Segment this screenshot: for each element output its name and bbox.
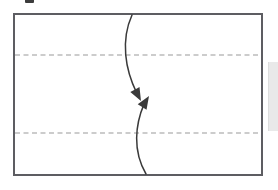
downward-arrow-shaft bbox=[125, 15, 136, 93]
diagram-vector-layer bbox=[0, 0, 278, 190]
upward-curved-arrow bbox=[137, 96, 149, 174]
figure-canvas bbox=[0, 0, 278, 190]
downward-curved-arrow bbox=[125, 15, 141, 101]
downward-arrow-head bbox=[130, 87, 141, 101]
upward-arrow-shaft bbox=[137, 104, 146, 174]
